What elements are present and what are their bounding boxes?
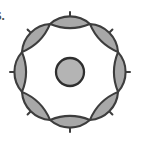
petal-2 bbox=[22, 24, 50, 52]
figure-canvas: 6. bbox=[0, 0, 141, 148]
petal-7 bbox=[114, 52, 126, 92]
rosette-diagram bbox=[0, 0, 141, 148]
petal-8 bbox=[90, 24, 118, 52]
petal-3 bbox=[14, 52, 26, 92]
petal-1 bbox=[50, 16, 90, 28]
petal-6 bbox=[90, 92, 118, 120]
petal-5 bbox=[50, 116, 90, 128]
center-hub-circle bbox=[56, 58, 84, 86]
petal-4 bbox=[22, 92, 50, 120]
